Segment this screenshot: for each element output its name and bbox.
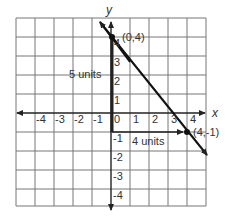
coordinate-plane: x y (0,4) (4,-1) 5 units 4 units -4 -3 -… <box>0 0 232 219</box>
x-axis-label: x <box>211 106 219 120</box>
svg-text:-2: -2 <box>113 151 123 163</box>
svg-text:0: 0 <box>114 113 120 125</box>
svg-text:3: 3 <box>114 56 120 68</box>
svg-text:-1: -1 <box>113 132 123 144</box>
vertical-annotation: 5 units <box>69 68 102 80</box>
point-label-0-4: (0,4) <box>122 31 145 43</box>
svg-text:4: 4 <box>114 37 120 49</box>
horizontal-annotation: 4 units <box>132 135 165 147</box>
svg-text:2: 2 <box>152 113 158 125</box>
svg-text:-2: -2 <box>74 113 84 125</box>
svg-text:2: 2 <box>114 75 120 87</box>
svg-text:4: 4 <box>190 113 196 125</box>
y-axis <box>111 22 112 210</box>
svg-text:3: 3 <box>171 113 177 125</box>
svg-text:-1: -1 <box>93 113 103 125</box>
point-4-neg1 <box>184 129 190 135</box>
svg-text:-3: -3 <box>113 170 123 182</box>
x-tick-labels: -4 -3 -2 -1 0 1 2 3 4 <box>36 113 196 125</box>
svg-text:-4: -4 <box>113 189 123 201</box>
point-label-4-neg1: (4,-1) <box>193 126 219 138</box>
y-axis-label: y <box>105 3 113 17</box>
svg-text:-3: -3 <box>55 113 65 125</box>
svg-text:1: 1 <box>133 113 139 125</box>
svg-text:-4: -4 <box>36 113 46 125</box>
svg-text:1: 1 <box>114 94 120 106</box>
